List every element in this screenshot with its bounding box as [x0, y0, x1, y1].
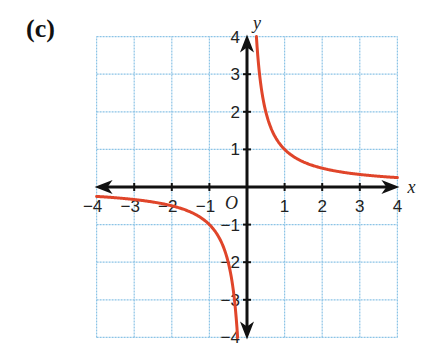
hyperbola-chart: −4−3−2−11234−4−3−2−11234xyO	[0, 0, 433, 359]
y-tick-label: 2	[231, 103, 240, 122]
curve-branch-positive	[256, 37, 397, 178]
x-tick-label: 2	[317, 197, 326, 216]
y-tick-label: −3	[221, 291, 240, 310]
x-tick-label: 1	[280, 197, 289, 216]
x-tick-label: 3	[355, 197, 364, 216]
x-axis-label: x	[406, 177, 415, 197]
x-tick-label: −4	[83, 197, 102, 216]
x-tick-label: −1	[196, 197, 215, 216]
x-tick-label: 4	[393, 197, 402, 216]
y-tick-label: −1	[221, 216, 240, 235]
y-tick-label: 4	[231, 28, 240, 47]
y-axis-label: y	[251, 13, 261, 33]
origin-label: O	[225, 193, 238, 213]
y-tick-label: 3	[231, 65, 240, 84]
y-tick-label: 1	[231, 140, 240, 159]
curve-branch-negative	[97, 196, 238, 337]
